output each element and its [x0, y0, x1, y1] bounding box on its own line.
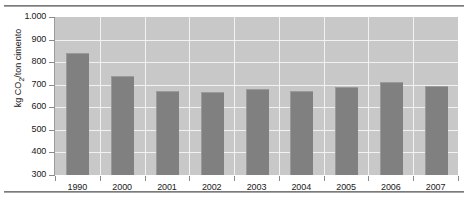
x-axis-tick-label: 1990 — [55, 182, 100, 192]
bar-2000 — [111, 76, 134, 175]
y-axis-tick-label: 600 — [6, 101, 46, 111]
gridline-vertical — [189, 17, 190, 175]
bar-2001 — [156, 91, 179, 175]
x-axis-tick-label: 2007 — [413, 182, 458, 192]
bar-2005 — [335, 87, 358, 175]
plot-area — [55, 17, 458, 175]
bar-2007 — [425, 86, 448, 175]
gridline-horizontal — [55, 40, 458, 41]
gridline-vertical — [100, 17, 101, 175]
bar-2006 — [380, 82, 403, 175]
y-axis-tick-label: 900 — [6, 34, 46, 44]
gridline-vertical — [413, 17, 414, 175]
y-axis-tick-label: 400 — [6, 146, 46, 156]
gridline-vertical — [279, 17, 280, 175]
chart-figure: kg CO2/ton cimento 300400500600700800900… — [0, 0, 468, 207]
x-axis-tick-label: 2004 — [279, 182, 324, 192]
x-axis-tick-mark — [458, 176, 459, 181]
y-axis-tick-label: 300 — [6, 169, 46, 179]
y-axis-tick-label: 700 — [6, 79, 46, 89]
x-axis-tick-label: 2006 — [368, 182, 413, 192]
gridline-vertical — [145, 17, 146, 175]
x-axis-tick-mark — [368, 176, 369, 181]
top-divider-rule — [4, 5, 464, 7]
x-axis-tick-label: 2002 — [189, 182, 234, 192]
x-axis-tick-mark — [145, 176, 146, 181]
y-axis-tick-label: 800 — [6, 56, 46, 66]
x-axis-tick-mark — [279, 176, 280, 181]
x-axis-tick-mark — [234, 176, 235, 181]
x-axis-tick-mark — [324, 176, 325, 181]
x-axis-tick-label: 2001 — [144, 182, 189, 192]
bar-2002 — [201, 92, 224, 175]
x-axis-tick-mark — [413, 176, 414, 181]
gridline-vertical — [234, 17, 235, 175]
x-axis-tick-label: 2000 — [100, 182, 145, 192]
gridline-vertical — [368, 17, 369, 175]
bar-2003 — [246, 89, 269, 175]
y-axis-tick-label: 1.000 — [6, 11, 46, 21]
bar-2004 — [290, 91, 313, 176]
x-axis-tick-mark — [100, 176, 101, 181]
x-axis-tick-label: 2003 — [234, 182, 279, 192]
bar-1990 — [66, 53, 89, 175]
x-axis-tick-mark — [55, 176, 56, 181]
x-axis-tick-label: 2005 — [324, 182, 369, 192]
y-axis-tick-label: 500 — [6, 124, 46, 134]
gridline-horizontal — [55, 62, 458, 63]
x-axis-tick-mark — [189, 176, 190, 181]
gridline-vertical — [324, 17, 325, 175]
